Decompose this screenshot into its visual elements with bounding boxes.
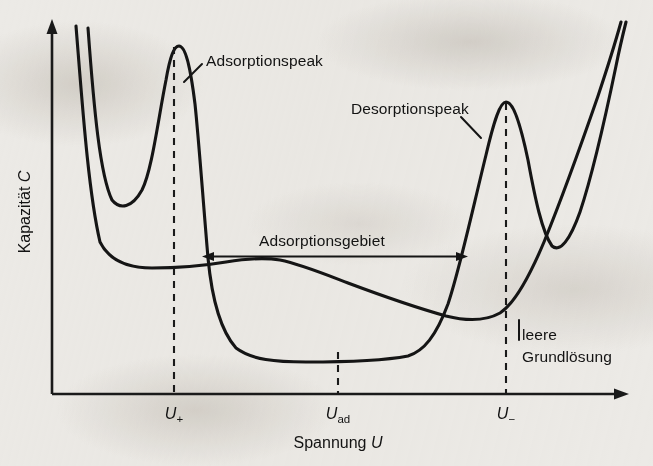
- annotation-adsorption-peak: Adsorptionspeak: [184, 52, 323, 82]
- baseline-solution-label-line1: leere: [522, 326, 557, 343]
- x-axis-title-symbol: U: [371, 434, 383, 451]
- y-axis-arrowhead: [47, 19, 58, 34]
- x-tick-sub-u-ad: ad: [337, 413, 350, 425]
- x-axis-title: Spannung U: [294, 434, 383, 451]
- curve-baseline-grundloesung: [76, 22, 621, 320]
- annotation-desorption-peak: Desorptionspeak: [351, 100, 481, 138]
- annotation-adsorption-region: Adsorptionsgebiet: [202, 232, 468, 261]
- x-tick-sub-u-plus: +: [176, 413, 183, 425]
- x-tick-base-u-minus: U: [497, 405, 509, 422]
- x-tick-label-u-plus: U+: [165, 405, 184, 425]
- y-axis-title: Kapazität C: [16, 170, 33, 253]
- curve-measurement-with-peaks: [88, 22, 626, 362]
- x-axis-arrowhead: [614, 389, 629, 400]
- x-tick-label-u-minus: U−: [497, 405, 516, 425]
- x-tick-labels-group: U+ Uad U−: [165, 405, 516, 425]
- capacitance-voltage-chart: Adsorptionspeak Desorptionspeak Adsorpti…: [0, 0, 653, 466]
- desorption-peak-leader-line: [461, 117, 481, 138]
- desorption-peak-label: Desorptionspeak: [351, 100, 469, 117]
- adsorption-peak-label: Adsorptionspeak: [206, 52, 323, 69]
- annotation-baseline-solution: leere Grundlösung: [519, 320, 612, 365]
- baseline-solution-label-line2: Grundlösung: [522, 348, 612, 365]
- adsorption-region-label: Adsorptionsgebiet: [259, 232, 385, 249]
- x-tick-base-u-plus: U: [165, 405, 177, 422]
- x-tick-sub-u-minus: −: [508, 413, 515, 425]
- y-axis-title-symbol: C: [16, 170, 33, 182]
- y-axis-title-text: Kapazität: [16, 182, 33, 253]
- x-tick-base-u-ad: U: [326, 405, 338, 422]
- x-axis-title-text: Spannung: [294, 434, 371, 451]
- x-tick-label-u-ad: Uad: [326, 405, 350, 425]
- curves-group: [76, 22, 626, 362]
- figure-root: Adsorptionspeak Desorptionspeak Adsorpti…: [0, 0, 653, 466]
- dashed-guides-group: [174, 47, 506, 393]
